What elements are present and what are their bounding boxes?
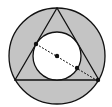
tangent-point (34, 42, 38, 46)
center-point (55, 54, 59, 58)
geometry-diagram (0, 0, 112, 107)
circle-intersection-point (75, 66, 79, 70)
vertex-point (96, 78, 100, 82)
